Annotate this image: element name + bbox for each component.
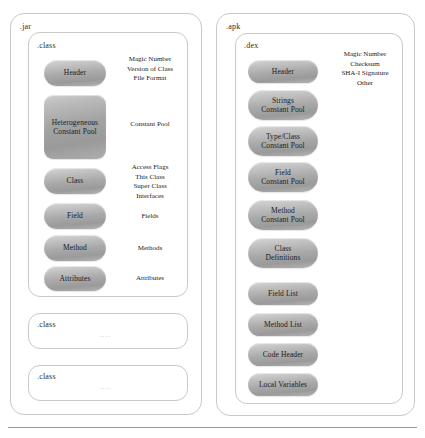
dex-block-field-list: Field List	[248, 282, 318, 305]
class-annotation-fields: Fields	[114, 212, 186, 222]
apk-archive-label: .apk	[226, 22, 240, 31]
class-primary-label: .class	[37, 41, 56, 50]
dex-block-type-class-constant-pool-label: Type/Class Constant Pool	[261, 132, 305, 150]
dex-block-method-list: Method List	[248, 313, 318, 336]
class-annotation-attributes: Attributes	[114, 274, 186, 284]
class-block-field: Field	[44, 203, 106, 229]
dex-block-class-definitions: Class Definitions	[248, 238, 318, 268]
dex-primary-label: .dex	[244, 41, 258, 50]
class-annotation-constant-pool: Constant Pool	[114, 120, 186, 130]
class-block-class: Class	[44, 168, 106, 194]
class-tertiary-label: .class	[37, 372, 56, 381]
dex-block-local-variables-label: Local Variables	[259, 380, 307, 389]
dex-block-code-header-label: Code Header	[263, 350, 303, 359]
dex-block-header: Header	[248, 60, 318, 83]
dex-block-type-class-constant-pool: Type/Class Constant Pool	[248, 126, 318, 156]
class-block-heterogeneous-constant-pool-label: Heterogeneous Constant Pool	[52, 118, 98, 136]
jar-archive-label: .jar	[20, 22, 31, 31]
class-annotation-methods: Methods	[114, 244, 186, 254]
dex-block-field-constant-pool-label: Field Constant Pool	[261, 168, 305, 186]
class-annotation-class: Access Flags This Class Super Class Inte…	[114, 163, 186, 202]
dex-block-class-definitions-label: Class Definitions	[266, 244, 301, 262]
class-secondary-label: .class	[37, 320, 56, 329]
class-block-method-label: Method	[63, 243, 87, 252]
class-block-attributes-label: Attributes	[60, 274, 91, 283]
dex-block-field-constant-pool: Field Constant Pool	[248, 162, 318, 192]
dex-block-strings-constant-pool-label: Strings Constant Pool	[261, 96, 305, 114]
dex-block-header-label: Header	[272, 67, 294, 76]
dex-block-local-variables: Local Variables	[248, 373, 318, 396]
dex-block-strings-constant-pool: Strings Constant Pool	[248, 90, 318, 120]
class-block-attributes: Attributes	[44, 266, 106, 291]
class-secondary-ellipsis: ....	[100, 331, 111, 339]
dex-block-method-list-label: Method List	[264, 320, 302, 329]
dex-block-method-constant-pool-label: Method Constant Pool	[261, 206, 305, 224]
class-block-header: Header	[44, 60, 106, 86]
dex-annotation-header: Magic Number Checksum SHA-I Signature Ot…	[326, 50, 404, 89]
class-block-heterogeneous-constant-pool: Heterogeneous Constant Pool	[44, 95, 106, 159]
class-block-field-label: Field	[67, 211, 83, 220]
class-block-method: Method	[44, 235, 106, 261]
class-block-header-label: Header	[64, 68, 86, 77]
class-tertiary-ellipsis: ....	[100, 383, 111, 391]
dex-block-method-constant-pool: Method Constant Pool	[248, 200, 318, 230]
bottom-divider	[8, 427, 417, 428]
class-block-class-label: Class	[67, 176, 84, 185]
dex-block-code-header: Code Header	[248, 343, 318, 366]
class-annotation-header: Magic Number Version of Class File Forma…	[114, 55, 186, 84]
dex-block-field-list-label: Field List	[268, 289, 298, 298]
